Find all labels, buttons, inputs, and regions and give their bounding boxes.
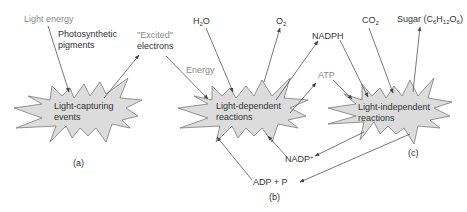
- energy-label: Energy: [186, 65, 215, 75]
- arrow-atp-out: [290, 83, 316, 113]
- water-label: H2O: [193, 16, 210, 27]
- arrow-nadp-in: [268, 136, 286, 156]
- burst-a-label-1: Light-capturing: [54, 101, 114, 111]
- adp-label: ADP + P: [253, 177, 288, 187]
- burst-b-label-1: Light-dependent: [216, 101, 282, 111]
- arrow-water-in: [206, 28, 233, 92]
- arrow-co2-in: [369, 28, 393, 93]
- arrow-atp-in: [333, 80, 352, 99]
- light-energy-label: Light energy: [24, 14, 74, 24]
- arrow-nadph-out: [276, 41, 318, 100]
- excited-label-2: electrons: [137, 41, 174, 51]
- arrow-excited-to-b: [166, 56, 208, 99]
- burst-c-label-2: reactions: [358, 113, 395, 123]
- arrow-nadph-in: [340, 40, 368, 97]
- burst-b-label-2: reactions: [216, 112, 253, 122]
- arrow-adp-in: [217, 137, 252, 180]
- burst-a-label-2: events: [54, 112, 81, 122]
- excited-label-1: "Excited": [137, 30, 173, 40]
- atp-label: ATP: [318, 70, 335, 80]
- arrow-oxygen-out: [264, 28, 280, 82]
- pigments-label-1: Photosynthetic: [58, 29, 118, 39]
- sugar-label: Sugar (C6H12O6): [397, 14, 463, 25]
- oxygen-label: O2: [276, 16, 287, 27]
- caption-a: (a): [73, 158, 84, 168]
- arrow-sugar-out: [413, 27, 420, 92]
- photosynthesis-diagram: Light-capturing events Light energy Phot…: [0, 0, 467, 212]
- caption-c: (c): [408, 148, 419, 158]
- pigments-label-2: pigments: [58, 40, 95, 50]
- co2-label: CO2: [362, 15, 380, 26]
- diagram-canvas: Light-capturing events Light energy Phot…: [0, 0, 467, 212]
- nadp-label: NADP+: [285, 154, 314, 164]
- nadph-label: NADPH: [312, 31, 344, 41]
- caption-b: (b): [269, 192, 280, 202]
- burst-c-label-1: Light-independent: [358, 102, 431, 112]
- arrow-nadp-out: [315, 132, 364, 156]
- arrow-adp-out: [300, 134, 410, 182]
